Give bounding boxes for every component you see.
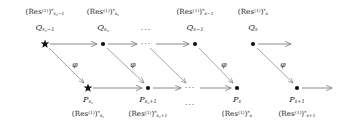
bottom-name-ellipsis: ··· [185, 101, 196, 109]
bottom-res-label-p-s-plus-1: (Res(1))*s+1 [278, 110, 315, 119]
arrow-diagonal-phi-3 [150, 48, 186, 83]
top-res-label-q-s0: (Res(1))*s0 [87, 8, 119, 17]
dot-node-p-s [235, 86, 239, 90]
top-node-label-q-s0-minus-1: Qs0−1 [36, 23, 55, 33]
arrow-diagonal-phi-5 [257, 48, 293, 83]
arrow-diagonal-phi-2 [107, 48, 144, 83]
top-res-label-q-s: (Res(1))*s [238, 8, 268, 17]
dot-node-p-s0-plus-1 [146, 86, 150, 90]
bottom-node-label-p-s0-plus-1: Ps0+1 [139, 95, 157, 105]
phi-label-phi-2: φ [130, 61, 135, 69]
bottom-node-label-p-s-plus-1: Ps+1 [289, 95, 305, 105]
bottom-row-ellipsis: ··· [185, 84, 196, 92]
top-node-label-q-s: Qs [248, 23, 257, 33]
star-node-p-s0 [84, 83, 93, 91]
top-res-label-q-s-minus-1: (Res(1))*s−1 [176, 8, 213, 17]
bottom-res-label-p-s: (Res(1))*s [222, 110, 252, 119]
bottom-node-label-p-s: Ps [233, 95, 241, 105]
top-res-label-q-s0-minus-1: (Res(1))*s0−1 [26, 8, 65, 17]
star-node-q-s0-minus-1 [41, 39, 50, 47]
dot-node-p-s-plus-1 [295, 86, 299, 90]
arrow-diagonal-phi-4 [199, 48, 233, 83]
phi-label-phi-4: φ [221, 61, 226, 69]
dot-node-q-s [251, 42, 255, 46]
diagonal-arrow-group [49, 48, 293, 83]
bottom-res-label-p-s0: (Res(1))*s0 [72, 110, 104, 119]
top-row-ellipsis: ··· [141, 40, 152, 48]
top-node-label-q-s-minus-1: Qs−1 [187, 23, 204, 33]
top-node-label-q-s0: Qs0 [97, 23, 108, 33]
bottom-node-label-p-s0: Ps0 [83, 95, 93, 105]
phi-label-phi-5: φ [280, 61, 285, 69]
horizontal-arrow-group [50, 44, 332, 88]
bottom-res-label-p-s0-plus-1: (Res(1))*s0+1 [129, 110, 168, 119]
node-marker-group [41, 39, 299, 91]
dot-node-q-s-minus-1 [193, 42, 197, 46]
arrow-diagonal-phi-1 [49, 48, 84, 83]
resolution-ladder-diagram: (Res(1))*s0−1Qs0−1(Res(1))*s0Qs0(Res(1))… [0, 0, 345, 131]
phi-label-phi-1: φ [72, 61, 77, 69]
dot-node-q-s0 [101, 42, 105, 46]
top-name-ellipsis: ··· [141, 26, 152, 34]
